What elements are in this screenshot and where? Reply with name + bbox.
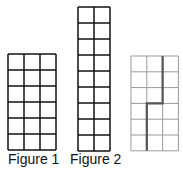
figure-1-grid	[8, 54, 56, 150]
figure-1-label: Figure 1	[8, 151, 59, 167]
figure-2-label: Figure 2	[70, 151, 121, 167]
figures-canvas	[0, 0, 183, 173]
cut-path-line	[147, 56, 163, 151]
figure-2-grid	[78, 7, 110, 151]
